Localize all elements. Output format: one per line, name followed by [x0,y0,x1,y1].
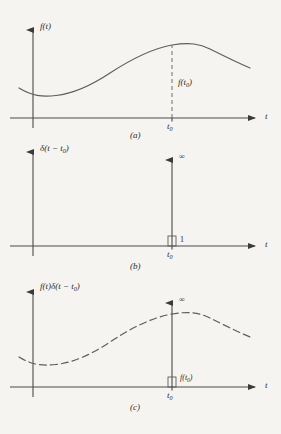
panel-c-value-label: f(t0) [180,374,193,383]
panel-c-y-axis-label: f(t)δ(t − t0) [40,282,80,292]
panel-a-t0-tick-label: t0 [167,122,173,132]
panel-c-x-axis-label: t [265,381,268,390]
panel-a-caption: (a) [130,131,141,140]
panel-b-x-axis-label: t [265,240,268,249]
panel-c-t0-subscript: 0 [170,395,173,401]
panel-b-area-label: 1 [180,236,184,244]
panel-c-infinity-label: ∞ [179,296,185,304]
panel-a-x-axis-label: t [265,112,268,121]
figure-container: f(t) t t0 f(t0) (a) δ(t − t0) t ∞ 1 t0 (… [0,0,281,434]
panel-b-graphics [10,152,255,256]
panel-a-value-label: f(t0) [178,78,192,88]
panel-b-t0-tick-label: t0 [167,250,173,260]
figure-graphics [0,0,281,434]
panel-a-y-axis-label: f(t) [40,22,51,31]
panel-a-graphics [10,30,255,128]
panel-c-graphics [10,292,255,397]
panel-a-curve [19,44,250,96]
panel-a-t0-subscript: 0 [170,126,173,132]
panel-b-caption: (b) [130,262,141,271]
panel-c-caption: (c) [130,403,140,412]
panel-b-t0-subscript: 0 [170,254,173,260]
panel-c-t0-tick-label: t0 [167,391,173,401]
panel-b-y-axis-label: δ(t − t0) [40,144,69,154]
panel-b-infinity-label: ∞ [179,153,185,161]
panel-c-envelope-curve [19,313,250,365]
